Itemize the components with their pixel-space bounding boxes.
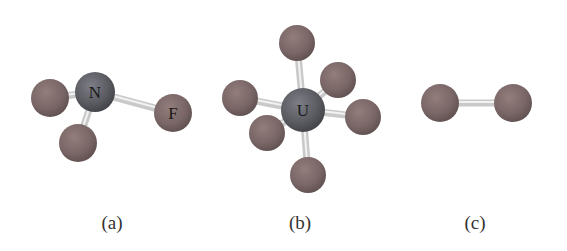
atom-symbol: N (89, 83, 101, 102)
atoms-layer: NFU (31, 25, 532, 193)
fluorine-atom (345, 99, 381, 135)
fluorine-atom (249, 115, 285, 151)
molecule-a-atoms: NF (31, 72, 192, 162)
atom-symbol: F (168, 104, 177, 123)
caption-a: (a) (101, 212, 122, 234)
caption-b: (b) (289, 212, 311, 234)
fluorine-atom (59, 124, 97, 162)
fluorine-atom (31, 79, 69, 117)
fluorine-atom (421, 84, 459, 122)
fluorine-atom (290, 157, 326, 193)
molecule-diagram: NFU (a)(b)(c) (0, 0, 567, 251)
captions-layer: (a)(b)(c) (101, 212, 485, 234)
fluorine-atom (320, 62, 356, 98)
atom-symbol: U (297, 101, 309, 120)
molecule-b-atoms: U (222, 25, 381, 193)
fluorine-atom (279, 25, 315, 61)
caption-c: (c) (464, 212, 485, 234)
fluorine-atom (494, 84, 532, 122)
fluorine-atom (222, 80, 258, 116)
